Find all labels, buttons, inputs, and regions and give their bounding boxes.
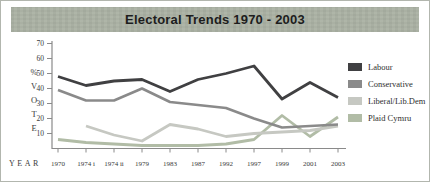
legend-item: Liberal/Lib.Dem (348, 97, 425, 105)
x-tick-label: 1979 (135, 160, 150, 168)
y-tick-label: 50 (37, 69, 45, 78)
electoral-trends-figure: Electoral Trends 1970 - 2003 70605040302… (0, 0, 430, 182)
y-tick-label: 60 (37, 54, 45, 63)
legend-label: Plaid Cymru (368, 114, 411, 122)
x-tick-label: 1997 (247, 160, 262, 168)
x-tick-label: 1970 (51, 160, 66, 168)
legend-label: Labour (368, 63, 393, 71)
legend-item: Plaid Cymru (348, 114, 425, 122)
x-tick-label: 1987 (191, 160, 206, 168)
y-tick-label: 70 (37, 39, 45, 48)
y-tick-label: 10 (37, 129, 45, 138)
axis-lines (52, 41, 346, 149)
x-tick-label: 1992 (219, 160, 234, 168)
y-axis-title-char: E (31, 123, 36, 133)
x-tick-label: 1974 i (77, 160, 95, 168)
x-tick-label: 2003 (331, 160, 346, 168)
legend-item: Labour (348, 63, 425, 71)
y-tick-label: 20 (37, 114, 45, 123)
x-tick-label: 1974 ii (104, 160, 124, 168)
legend-swatch (348, 114, 362, 122)
legend-label: Liberal/Lib.Dem (368, 97, 425, 105)
x-tick-label: 1999 (275, 160, 290, 168)
x-tick-label: 2001 (303, 160, 318, 168)
legend-swatch (348, 63, 362, 71)
legend-swatch (348, 97, 362, 105)
y-axis-title-char: V (31, 81, 38, 91)
x-tick-label: 1983 (163, 160, 178, 168)
series-line-labour (58, 66, 338, 99)
series-line-conservative (58, 89, 338, 128)
legend-item: Conservative (348, 80, 425, 88)
y-axis-title-char: O (31, 95, 37, 105)
y-axis-title-char: % (30, 67, 37, 77)
chart-legend: LabourConservativeLiberal/Lib.DemPlaid C… (348, 63, 425, 131)
y-tick-label: 30 (37, 99, 45, 108)
legend-swatch (348, 80, 362, 88)
y-tick-label: 40 (37, 84, 45, 93)
legend-label: Conservative (368, 80, 413, 88)
y-axis-title-char: T (31, 109, 37, 119)
x-axis-title: YEAR (9, 159, 41, 168)
